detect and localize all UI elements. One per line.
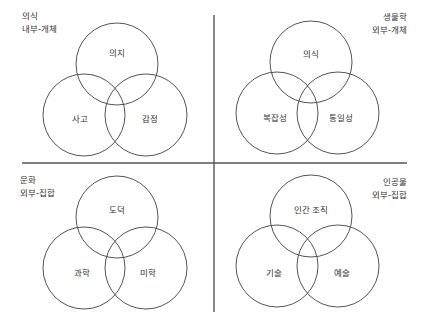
circle-label: 통일성 — [329, 111, 353, 123]
circle-label: 의식 — [303, 47, 319, 59]
quadrant-label-bottom-left: 문화 외부-집합 — [20, 174, 55, 200]
quadrant-subtitle: 내부-개체 — [22, 23, 57, 36]
quadrant-title: 생물학 — [372, 11, 407, 24]
circle-label: 의지 — [109, 46, 125, 58]
quadrant-subtitle: 외부-집합 — [20, 187, 55, 200]
circle-label: 인간 조직 — [294, 203, 329, 215]
quadrant-label-top-left: 의식 내부-개체 — [22, 10, 57, 36]
quadrant-subtitle: 외부-집합 — [372, 189, 407, 202]
circle-label: 미학 — [140, 266, 156, 278]
venn-circle-top — [76, 23, 158, 105]
circle-label: 감정 — [142, 112, 158, 124]
quadrant-title: 인공물 — [372, 176, 407, 189]
venn-circle-top — [270, 175, 352, 257]
quadrant-label-bottom-right: 인공물 외부-집합 — [372, 176, 407, 202]
venn-top-right — [236, 21, 379, 154]
venn-circle-top — [76, 176, 158, 258]
circle-label: 복잡성 — [263, 111, 287, 123]
venn-bottom-left — [43, 176, 187, 309]
circle-label: 사고 — [72, 112, 88, 124]
venn-top-left — [43, 23, 187, 156]
circle-label: 예술 — [334, 266, 350, 278]
circle-label: 기술 — [266, 266, 282, 278]
diagram-canvas — [0, 0, 431, 332]
quadrant-title: 의식 — [22, 10, 57, 23]
circle-label: 과학 — [74, 266, 90, 278]
quadrant-label-top-right: 생물학 외부-개체 — [372, 11, 407, 37]
circle-label: 도덕 — [109, 203, 125, 215]
quadrant-subtitle: 외부-개체 — [372, 24, 407, 37]
venn-bottom-right — [236, 175, 379, 307]
quadrant-title: 문화 — [20, 174, 55, 187]
